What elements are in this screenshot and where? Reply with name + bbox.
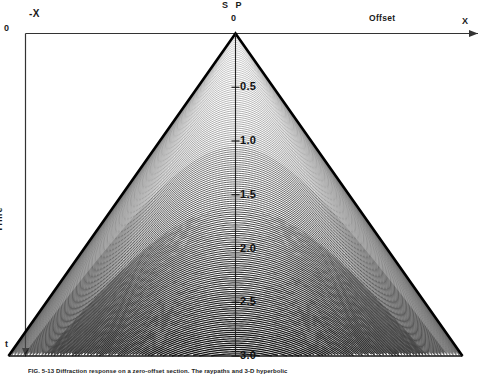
time-tick-label: 2.5 xyxy=(240,296,256,307)
x-axis-right-label: X xyxy=(462,17,469,26)
y-axis-bottom-label: t xyxy=(5,340,9,349)
diffraction-figure: -X 0 S P 0 Offset X Time t 0.51.01.52.02… xyxy=(0,0,481,378)
x-axis-name-label: Offset xyxy=(369,14,395,23)
time-tick-label: 0.5 xyxy=(240,81,256,92)
y-axis-name-label: Time xyxy=(0,206,4,232)
time-tick-label: 1.5 xyxy=(240,189,256,200)
time-tick-label: 3.0 xyxy=(240,350,256,361)
origin-label: 0 xyxy=(4,24,10,33)
time-tick-label: 2.0 xyxy=(240,243,256,254)
figure-caption: FIG. 5-13 Diffraction response on a zero… xyxy=(28,368,478,377)
source-point-label: S P xyxy=(222,1,244,10)
x-axis-left-label: -X xyxy=(29,9,40,19)
apex-zero-label: 0 xyxy=(231,14,237,23)
time-tick-label: 1.0 xyxy=(240,135,256,146)
